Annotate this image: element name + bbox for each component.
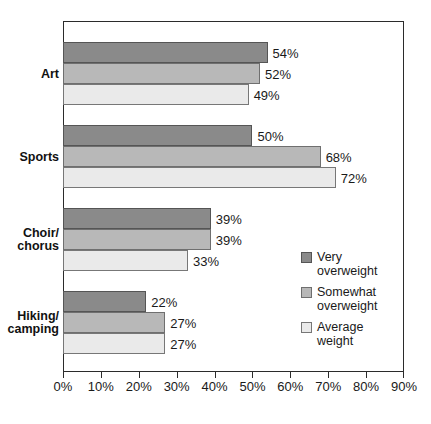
x-axis-tick-labels: 0%10%20%30%40%50%60%70%80%90% bbox=[0, 379, 431, 399]
x-axis-tick-label: 80% bbox=[353, 379, 379, 394]
bar-value-label: 27% bbox=[165, 336, 196, 351]
category-label: Choir/ chorus bbox=[0, 227, 59, 253]
legend-label: Very overweight bbox=[317, 250, 377, 278]
legend-item[interactable]: Average weight bbox=[301, 320, 396, 348]
bar[interactable] bbox=[63, 84, 249, 105]
bar[interactable] bbox=[63, 63, 260, 84]
x-axis-ticks bbox=[63, 372, 404, 378]
x-axis-tick bbox=[328, 372, 329, 378]
bar-value-label: 72% bbox=[336, 170, 367, 185]
legend-item[interactable]: Somewhat overweight bbox=[301, 285, 396, 313]
bar[interactable] bbox=[63, 125, 252, 146]
bar-value-label: 49% bbox=[249, 87, 280, 102]
bar-row: 39% bbox=[63, 208, 404, 229]
bar-row: 54% bbox=[63, 42, 404, 63]
bar-value-label: 50% bbox=[252, 128, 283, 143]
x-axis-tick bbox=[366, 372, 367, 378]
x-axis-tick bbox=[177, 372, 178, 378]
bar-row: 52% bbox=[63, 63, 404, 84]
legend-label: Somewhat overweight bbox=[317, 285, 377, 313]
bar[interactable] bbox=[63, 250, 188, 271]
x-axis-tick-label: 30% bbox=[164, 379, 190, 394]
x-axis-tick-label: 0% bbox=[54, 379, 73, 394]
x-axis-tick-label: 90% bbox=[391, 379, 417, 394]
x-axis-tick-label: 10% bbox=[88, 379, 114, 394]
legend-label: Average weight bbox=[317, 320, 363, 348]
x-axis-tick-label: 60% bbox=[277, 379, 303, 394]
bar-row: 50% bbox=[63, 125, 404, 146]
legend-item[interactable]: Very overweight bbox=[301, 250, 396, 278]
bar[interactable] bbox=[63, 291, 146, 312]
category-label: Art bbox=[0, 67, 59, 80]
bar-value-label: 52% bbox=[260, 66, 291, 81]
x-axis-tick bbox=[252, 372, 253, 378]
bar[interactable] bbox=[63, 208, 211, 229]
bar-value-label: 54% bbox=[268, 45, 299, 60]
bar[interactable] bbox=[63, 312, 165, 333]
x-axis-tick bbox=[215, 372, 216, 378]
category-label: Hiking/ camping bbox=[0, 310, 59, 336]
x-axis-tick-label: 50% bbox=[239, 379, 265, 394]
bar[interactable] bbox=[63, 42, 268, 63]
x-axis-tick bbox=[63, 372, 64, 378]
bar[interactable] bbox=[63, 146, 321, 167]
x-axis-tick bbox=[101, 372, 102, 378]
bar-value-label: 22% bbox=[146, 294, 177, 309]
bar-row: 49% bbox=[63, 84, 404, 105]
bar[interactable] bbox=[63, 229, 211, 250]
chart-legend: Very overweightSomewhat overweightAverag… bbox=[301, 250, 396, 355]
x-axis-tick-label: 20% bbox=[126, 379, 152, 394]
bar-value-label: 27% bbox=[165, 315, 196, 330]
bar[interactable] bbox=[63, 167, 336, 188]
legend-swatch-icon bbox=[301, 252, 312, 263]
bar-value-label: 39% bbox=[211, 232, 242, 247]
bar-row: 39% bbox=[63, 229, 404, 250]
x-axis-tick-label: 70% bbox=[315, 379, 341, 394]
bar-value-label: 39% bbox=[211, 211, 242, 226]
bar[interactable] bbox=[63, 333, 165, 354]
x-axis-tick bbox=[139, 372, 140, 378]
x-axis-tick bbox=[290, 372, 291, 378]
bar-value-label: 33% bbox=[188, 253, 219, 268]
category-label: Sports bbox=[0, 150, 59, 163]
x-axis-tick-label: 40% bbox=[202, 379, 228, 394]
bar-value-label: 68% bbox=[321, 149, 352, 164]
bar-row: 72% bbox=[63, 167, 404, 188]
x-axis-tick bbox=[403, 372, 404, 378]
bar-row: 68% bbox=[63, 146, 404, 167]
legend-swatch-icon bbox=[301, 322, 312, 333]
legend-swatch-icon bbox=[301, 287, 312, 298]
